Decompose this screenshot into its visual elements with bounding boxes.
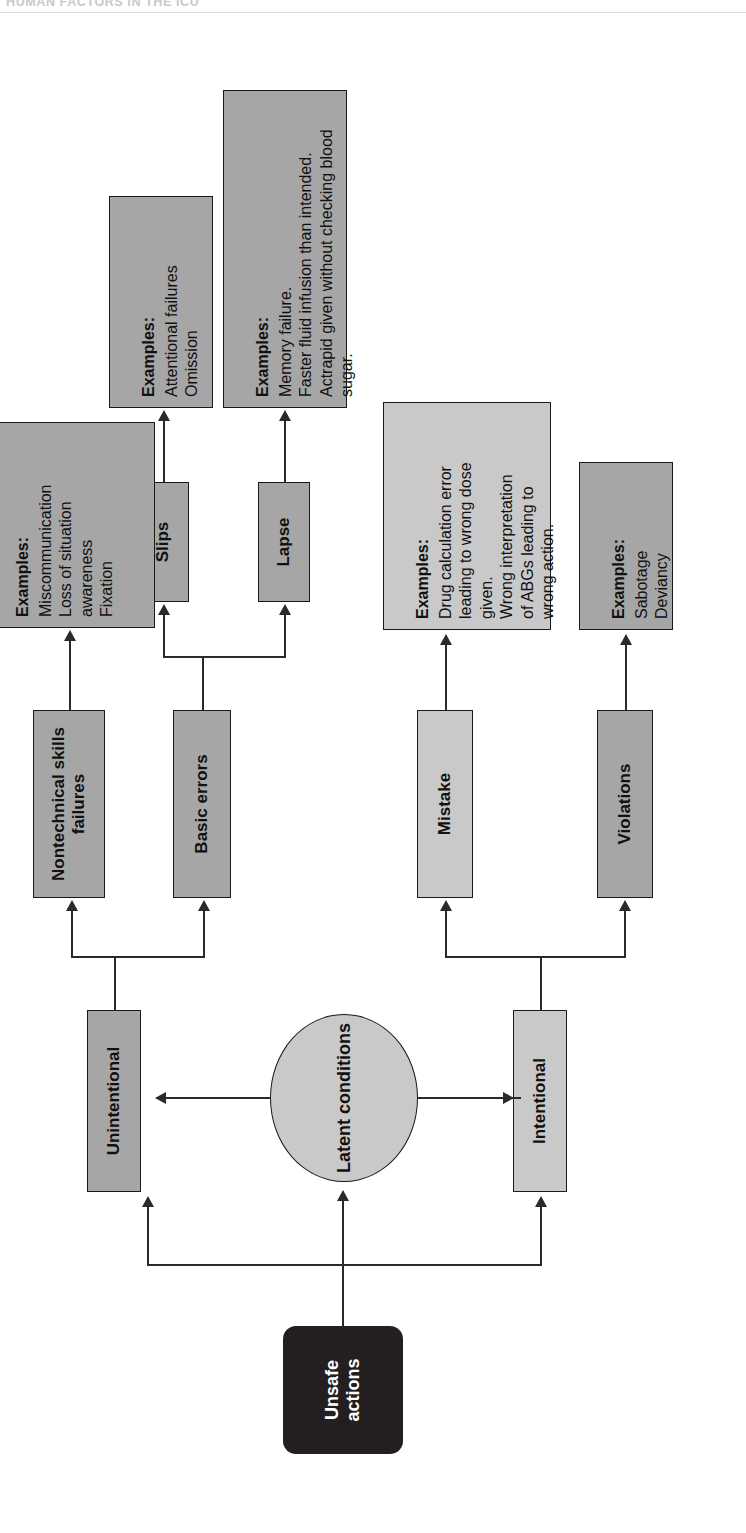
connector-to-violations	[624, 910, 626, 958]
arrowhead-to-mistake	[440, 900, 452, 911]
arrowhead-to-nontechnical	[66, 900, 78, 911]
panel-examples-slips-items: Attentional failures Omission	[163, 265, 200, 397]
connector-to-lapse	[284, 614, 286, 658]
node-slips-label: Slips	[153, 521, 173, 562]
node-lapse-label: Lapse	[274, 517, 294, 566]
arrowhead-slips-examples	[158, 410, 170, 421]
panel-examples-mistake-lead: Examples:	[413, 413, 433, 619]
panel-examples-slips-lead: Examples:	[139, 207, 159, 397]
node-latent-conditions[interactable]: Latent conditions	[270, 1014, 418, 1182]
arrowhead-root-to-latent	[337, 1190, 349, 1201]
connector-unintentional-out	[114, 958, 116, 1010]
node-lapse[interactable]: Lapse	[258, 482, 310, 602]
connector-intentional-out	[540, 958, 542, 1010]
panel-examples-lapse-items: Memory failure. Faster fluid infusion th…	[277, 129, 355, 397]
connector-nontechnical-to-examples	[69, 640, 71, 710]
node-unsafe-actions-label: Unsafe actions	[322, 1331, 364, 1449]
arrowhead-to-unintentional	[142, 1196, 154, 1207]
node-violations-label: Violations	[615, 763, 635, 844]
connector-to-unintentional	[147, 1206, 149, 1266]
connector-root-out	[342, 1266, 344, 1326]
connector-to-basic-errors	[203, 910, 205, 958]
panel-examples-nontechnical: Examples:Miscommunication Loss of situat…	[0, 422, 155, 628]
panel-examples-mistake-items: Drug calculation error leading to wrong …	[437, 462, 556, 619]
panel-examples-nontechnical-items: Miscommunication Loss of situation aware…	[37, 484, 115, 616]
arrowhead-to-slips	[158, 604, 170, 615]
connector-violations-to-examples	[625, 644, 627, 710]
connector-mistake-to-examples	[445, 644, 447, 710]
panel-examples-violations: Examples:Sabotage Deviancy	[579, 462, 673, 630]
node-latent-conditions-label: Latent conditions	[334, 1023, 355, 1173]
panel-examples-lapse-lead: Examples:	[253, 101, 273, 397]
arrowhead-latent-to-intentional	[503, 1092, 514, 1104]
connector-intentional-bus	[445, 956, 625, 958]
panel-examples-lapse: Examples:Memory failure. Faster fluid in…	[223, 90, 347, 408]
node-nontechnical-skills-failures-label: Nontechnical skills failures	[49, 716, 89, 892]
node-mistake-label: Mistake	[435, 772, 455, 834]
node-basic-errors[interactable]: Basic errors	[173, 710, 231, 898]
node-intentional-label: Intentional	[530, 1058, 550, 1144]
arrowhead-lapse-examples	[279, 410, 291, 421]
arrowhead-to-intentional	[535, 1196, 547, 1207]
panel-examples-nontechnical-lead: Examples:	[13, 433, 33, 617]
node-nontechnical-skills-failures[interactable]: Nontechnical skills failures	[33, 710, 105, 898]
arrowhead-mistake-examples	[440, 634, 452, 645]
node-mistake[interactable]: Mistake	[417, 710, 473, 898]
figure-caption: Fig. 1.4 Error classification (adapted) …	[726, 1529, 744, 1533]
connector-root-to-latent	[342, 1200, 344, 1266]
node-unsafe-actions[interactable]: Unsafe actions	[283, 1326, 403, 1454]
arrowhead-to-violations	[619, 900, 631, 911]
panel-examples-slips: Examples:Attentional failures Omission	[109, 196, 213, 408]
connector-to-nontechnical	[71, 910, 73, 958]
connector-root-bus	[147, 1264, 541, 1266]
connector-lapse-to-examples	[284, 420, 286, 482]
node-unintentional[interactable]: Unintentional	[87, 1010, 141, 1192]
arrowhead-violations-examples	[620, 634, 632, 645]
figure-stage-wrapper: Unsafe actions Unintentional Latent cond…	[0, 0, 718, 1533]
arrowhead-latent-to-unintentional	[155, 1092, 166, 1104]
node-unintentional-label: Unintentional	[104, 1046, 124, 1155]
panel-examples-violations-lead: Examples:	[609, 473, 629, 619]
connector-basic-errors-bus	[163, 656, 285, 658]
node-intentional[interactable]: Intentional	[513, 1010, 567, 1192]
panel-examples-mistake: Examples:Drug calculation error leading …	[383, 402, 551, 630]
connector-to-mistake	[445, 910, 447, 958]
connector-to-intentional	[540, 1206, 542, 1266]
connector-to-slips	[163, 614, 165, 658]
arrowhead-to-basic-errors	[198, 900, 210, 911]
connector-slips-to-examples	[163, 420, 165, 482]
node-violations[interactable]: Violations	[597, 710, 653, 898]
connector-unintentional-bus	[71, 956, 203, 958]
connector-basic-errors-out	[202, 658, 204, 710]
arrowhead-to-lapse	[279, 604, 291, 615]
error-classification-diagram: Unsafe actions Unintentional Latent cond…	[25, 52, 665, 1482]
connector-latent-up	[165, 1097, 271, 1099]
arrowhead-nontechnical-examples	[64, 630, 76, 641]
panel-examples-violations-items: Sabotage Deviancy	[633, 550, 670, 619]
node-basic-errors-label: Basic errors	[192, 754, 212, 853]
